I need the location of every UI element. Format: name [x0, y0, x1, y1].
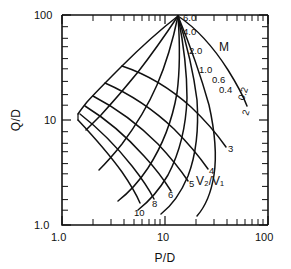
x-axis-top-ticks: [62, 15, 268, 24]
chart-figure: 6.0 4.0 2.0 1.0 0.6 0.4 0.2 M 2 3 4 5 6 …: [0, 0, 291, 269]
y-axis-title: Q/D: [9, 109, 23, 132]
x-axis-title: P/D: [154, 251, 175, 265]
label-vr-6: 6: [168, 189, 173, 200]
nomograph-svg: 6.0 4.0 2.0 1.0 0.6 0.4 0.2 M 2 3 4 5 6 …: [0, 0, 291, 269]
x-tick-10: 10: [157, 231, 169, 243]
label-m-2-0: 2.0: [189, 45, 202, 56]
curve-vr-4: [105, 83, 208, 169]
x-tick-labels: 1.0 10 100: [51, 231, 273, 243]
x-tick-100: 100: [255, 231, 273, 243]
curve-m-4-0: [86, 16, 178, 130]
y-tick-1: 1.0: [34, 219, 49, 231]
curve-m-2-0: [99, 16, 178, 170]
label-family-vratio: V₂/V₁: [196, 174, 224, 188]
curve-vr-8: [80, 114, 154, 199]
label-vr-5: 5: [189, 178, 194, 189]
label-family-m: M: [219, 40, 229, 54]
label-vr-3: 3: [228, 143, 233, 154]
y-tick-10: 10: [44, 114, 56, 126]
curve-m-6-0: [78, 16, 178, 114]
label-m-6-0: 6.0: [183, 12, 196, 23]
x-axis-ticks: [62, 216, 268, 225]
right-axis-ticks: [259, 15, 268, 225]
label-m-1-0: 1.0: [199, 64, 212, 75]
y-tick-labels: 100 10 1.0: [34, 9, 56, 231]
label-vr-8: 8: [152, 198, 157, 209]
label-vr-10: 10: [134, 207, 145, 218]
y-axis-ticks: [62, 15, 71, 225]
label-vr-2: 2: [239, 108, 251, 116]
label-m-4-0: 4.0: [183, 26, 196, 37]
y-tick-100: 100: [34, 9, 52, 21]
label-m-0-4: 0.4: [219, 84, 232, 95]
x-tick-1: 1.0: [51, 231, 66, 243]
label-m-0-2: 0.2: [235, 86, 250, 102]
